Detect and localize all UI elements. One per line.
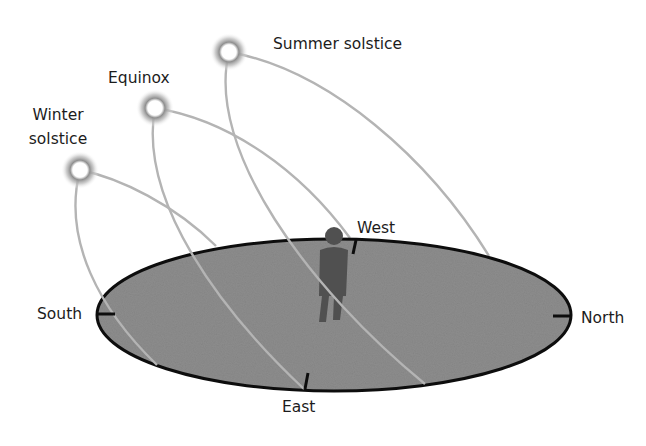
summer-solstice-label: Summer solstice [273,37,402,53]
sun-path-diagram: Winter solstice Equinox Summer solstice … [0,0,646,446]
north-label: North [581,311,624,327]
equinox-sun-icon [136,89,174,127]
winter-label-line-1: Winter [22,103,94,127]
winter-sun-icon [61,151,99,189]
summer-sun-icon [210,33,248,71]
south-label: South [37,307,82,323]
east-label: East [282,400,315,416]
west-label: West [357,221,395,237]
winter-path-back [80,170,216,246]
equinox-label: Equinox [108,71,170,87]
winter-solstice-label: Winter solstice [22,103,94,151]
diagram-canvas [0,0,646,446]
winter-label-line-2: solstice [22,127,94,151]
